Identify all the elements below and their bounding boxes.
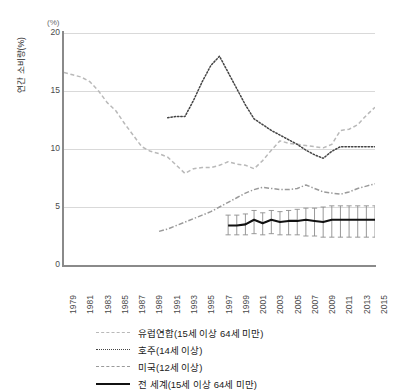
line-chart: (%) 연간 소비량(%) 05101520 19791981198319851… xyxy=(0,0,393,322)
legend-label-eu: 유럽연합(15세 이상 64세 미만) xyxy=(138,326,263,340)
legend-item-au[interactable]: 호주(14세 이상) xyxy=(96,342,203,358)
series-line-usa xyxy=(159,184,375,232)
x-axis-line xyxy=(62,265,376,267)
y-tick-label: 5 xyxy=(38,201,60,211)
y-tick-label: 10 xyxy=(38,143,60,153)
x-tick-label: 1987 xyxy=(137,295,147,314)
x-tick-label: 2009 xyxy=(327,295,337,314)
legend-label-world: 전 세계(15세 이상 64세 미만) xyxy=(138,377,257,391)
x-tick-label: 2003 xyxy=(275,295,285,314)
y-tick-label: 0 xyxy=(38,259,60,269)
x-tick-label: 2007 xyxy=(310,295,320,314)
legend-item-us[interactable]: 미국(12세 이상) xyxy=(96,359,203,375)
x-tick-label: 1979 xyxy=(68,295,78,314)
legend-swatch-au-icon xyxy=(96,345,130,355)
legend-label-us: 미국(12세 이상) xyxy=(138,360,203,374)
legend-item-eu[interactable]: 유럽연합(15세 이상 64세 미만) xyxy=(96,325,263,341)
legend-swatch-world-icon xyxy=(96,379,130,389)
x-axis-ticks: 1979198119831985198719891991199319951997… xyxy=(64,270,375,318)
x-tick-label: 1999 xyxy=(241,295,251,314)
x-tick-label: 2001 xyxy=(258,295,268,314)
y-axis-title: 연간 소비량(%) xyxy=(14,20,26,110)
chart-page: (%) 연간 소비량(%) 05101520 19791981198319851… xyxy=(0,0,393,392)
series-line-eu xyxy=(64,72,375,173)
legend-label-au: 호주(14세 이상) xyxy=(138,343,203,357)
legend-swatch-us-icon xyxy=(96,362,130,372)
x-tick-label: 1993 xyxy=(189,295,199,314)
x-tick-label: 1995 xyxy=(206,295,216,314)
x-tick-label: 1985 xyxy=(120,295,130,314)
x-tick-label: 1983 xyxy=(103,295,113,314)
chart-legend: 유럽연합(15세 이상 64세 미만)호주(14세 이상)미국(12세 이상)전… xyxy=(0,325,393,392)
x-tick-label: 1991 xyxy=(172,295,182,314)
plot-area xyxy=(64,33,375,265)
series-line-world xyxy=(228,220,375,226)
x-tick-label: 1981 xyxy=(85,295,95,314)
x-tick-label: 2005 xyxy=(293,295,303,314)
y-tick-label: 15 xyxy=(38,85,60,95)
series-canvas xyxy=(64,33,375,265)
x-tick-label: 2013 xyxy=(362,295,372,314)
y-tick-label: 20 xyxy=(38,27,60,37)
legend-swatch-eu-icon xyxy=(96,328,130,338)
series-line-australia xyxy=(168,56,375,158)
x-tick-label: 1997 xyxy=(224,295,234,314)
x-tick-label: 2011 xyxy=(344,296,354,314)
legend-item-world[interactable]: 전 세계(15세 이상 64세 미만) xyxy=(96,376,257,392)
x-tick-label: 1989 xyxy=(154,295,164,314)
y-axis-unit-label: (%) xyxy=(47,18,59,27)
x-tick-label: 2015 xyxy=(379,295,389,314)
